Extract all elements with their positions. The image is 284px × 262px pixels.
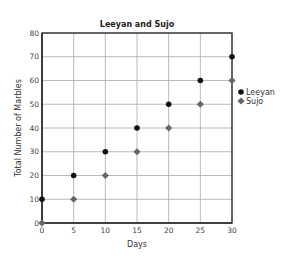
diamond-marker [133, 148, 140, 155]
legend-label: Leeyan [246, 88, 275, 97]
diamond-icon [237, 97, 244, 104]
chart-title: Leeyan and Sujo [100, 20, 175, 29]
diamond-marker [102, 172, 109, 179]
diamond-marker [70, 196, 77, 203]
x-tick-label: 5 [71, 226, 76, 235]
x-tick-label: 20 [164, 226, 174, 235]
y-tick-label: 10 [29, 195, 39, 204]
y-tick-label: 70 [29, 52, 39, 61]
legend-item-leeyan: Leeyan [238, 88, 275, 97]
x-tick-label: 0 [40, 226, 45, 235]
x-tick-label: 25 [196, 226, 206, 235]
legend-item-sujo: Sujo [237, 97, 263, 106]
y-tick-label: 40 [29, 124, 39, 133]
circle-marker [103, 149, 109, 155]
y-tick-label: 60 [29, 76, 39, 85]
x-axis-label: Days [127, 240, 147, 249]
circle-marker [39, 196, 45, 202]
circle-marker [229, 54, 235, 60]
diamond-marker [197, 101, 204, 108]
x-tick-label: 10 [101, 226, 111, 235]
y-tick-label: 20 [29, 171, 39, 180]
legend: LeeyanSujo [237, 88, 274, 106]
circle-marker [198, 78, 204, 84]
scatter-chart: Leeyan and Sujo 01020304050607080 051015… [0, 0, 284, 262]
circle-marker [71, 173, 77, 179]
y-tick-label: 80 [29, 29, 39, 38]
x-tick-label: 15 [132, 226, 142, 235]
x-tick-label: 30 [227, 226, 237, 235]
y-tick-label: 30 [29, 147, 39, 156]
x-axis-ticks: 051015202530 [40, 226, 237, 235]
y-axis-ticks: 01020304050607080 [29, 29, 39, 228]
y-axis-label: Total Number of Marbles [14, 79, 23, 178]
legend-label: Sujo [246, 97, 263, 106]
diamond-marker [228, 77, 235, 84]
circle-icon [238, 89, 244, 95]
circle-marker [166, 101, 172, 107]
diamond-marker [165, 124, 172, 131]
y-tick-label: 50 [29, 100, 39, 109]
circle-marker [134, 125, 140, 131]
